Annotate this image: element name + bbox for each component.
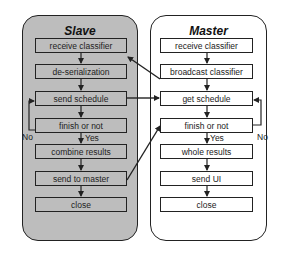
connector-arrows (0, 0, 285, 257)
flow-diagram: Slave Master receive classifier de-seria… (0, 0, 285, 257)
